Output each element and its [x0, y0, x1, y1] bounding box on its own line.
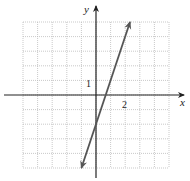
- y-axis-label: y: [83, 3, 89, 15]
- y-tick-label: 1: [86, 78, 91, 89]
- x-axis-label: x: [179, 96, 185, 108]
- x-tick-label: 2: [122, 99, 127, 110]
- coordinate-plane: x y 2 1: [0, 0, 190, 181]
- axes: [4, 6, 184, 178]
